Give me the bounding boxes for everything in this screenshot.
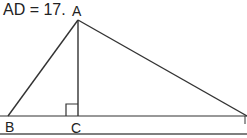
triangle-figure — [0, 0, 247, 138]
segment-ab — [8, 20, 78, 116]
point-c-label: C — [71, 121, 81, 135]
right-angle-marker — [66, 104, 78, 116]
point-a-label: A — [72, 4, 81, 18]
given-statement: AD = 17. — [3, 1, 66, 19]
geometry-diagram: AD = 17. A B C — [0, 0, 247, 138]
point-b-label: B — [5, 120, 14, 134]
segment-ad — [78, 20, 247, 116]
